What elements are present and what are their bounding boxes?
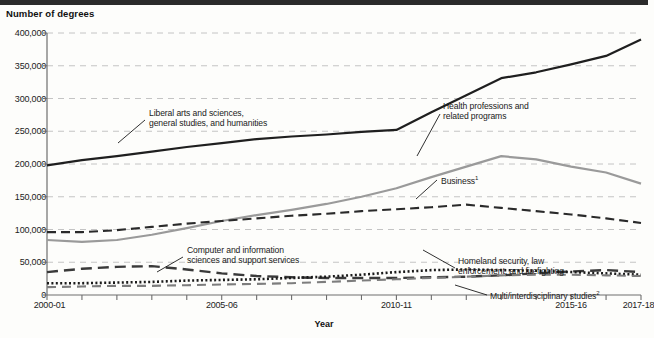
x-axis-title: Year: [0, 319, 648, 329]
footnote-marker: 2: [596, 290, 599, 296]
series-line: [47, 40, 641, 166]
series-line: [47, 205, 641, 233]
x-tick-label: 2010-11: [381, 300, 412, 310]
series-annotation-label: Homeland security, law enforcement, and …: [458, 256, 564, 276]
annotation-leader-line: [416, 180, 437, 199]
series-annotation-label: Computer and information sciences and su…: [187, 245, 299, 265]
annotation-leader-line: [423, 250, 455, 268]
x-tick-label: 2015-16: [555, 300, 587, 310]
series-annotation-label: Business1: [441, 173, 478, 186]
series-annotation-label: Health professions and related programs: [443, 101, 529, 121]
x-tick-label: 2005-06: [206, 300, 238, 310]
footnote-marker: 1: [475, 175, 478, 181]
annotation-leader-line: [455, 285, 487, 295]
annotation-leader-line: [417, 114, 440, 156]
annotation-leader-line: [157, 257, 183, 272]
x-tick-label: 2000-01: [34, 300, 66, 310]
x-tick-label: 2017-18: [623, 300, 654, 310]
series-annotation-label: Multi/interdisciplinary studies2: [490, 288, 600, 301]
series-annotation-label: Liberal arts and sciences, general studi…: [149, 108, 267, 128]
